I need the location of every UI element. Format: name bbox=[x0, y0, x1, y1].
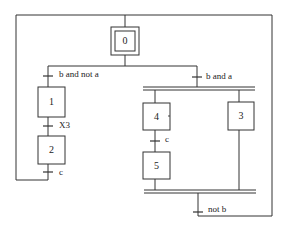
transition-label: c bbox=[165, 134, 169, 144]
transition-label: X3 bbox=[59, 120, 70, 130]
step-3-label: 3 bbox=[228, 111, 254, 121]
step-5-label: 5 bbox=[143, 161, 170, 171]
transition-label: not b bbox=[208, 204, 226, 214]
step-0-label: 0 bbox=[115, 36, 135, 46]
transition-label: c bbox=[59, 167, 63, 177]
step-4-label: 4 bbox=[143, 112, 170, 122]
transition-label: b and a bbox=[206, 71, 232, 81]
step-1-label: 1 bbox=[38, 97, 65, 107]
transition-label: b and not a bbox=[59, 69, 99, 79]
step-2-label: 2 bbox=[38, 145, 65, 155]
